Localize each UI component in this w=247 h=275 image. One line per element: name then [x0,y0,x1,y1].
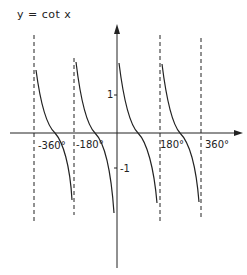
x-tick-label-180: 180° [160,139,184,150]
x-tick-label-neg180: -180° [76,139,104,150]
y-axis-arrow-icon [114,24,120,34]
y-tick-label-neg1: -1 [120,163,130,174]
chart-canvas: -360° -180° 180° 360° 1 -1 [0,0,247,275]
y-tick-label-1: 1 [107,89,113,100]
x-tick-label-neg360: -360° [38,140,66,151]
x-tick-label-360: 360° [205,139,229,150]
x-axis-arrow-icon [234,130,243,136]
